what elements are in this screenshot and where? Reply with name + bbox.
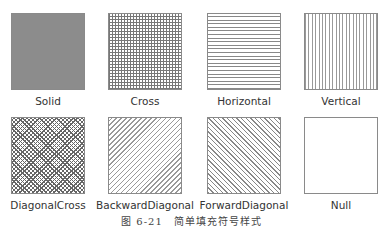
forward-diagonal-fill-swatch [207,117,281,194]
fill-style-label: BackwardDiagonal [88,199,202,211]
fill-style-solid: Solid [11,13,85,90]
horizontal-fill-swatch [207,13,281,90]
fill-style-backward-diagonal: BackwardDiagonal [108,117,182,194]
figure-caption: 图 6-21 简单填充符号样式 [0,213,383,228]
fill-style-horizontal: Horizontal [207,13,281,90]
fill-style-forward-diagonal: ForwardDiagonal [207,117,281,194]
solid-fill-swatch [11,13,85,90]
null-fill-swatch [304,117,378,194]
fill-style-null: Null [304,117,378,194]
cross-fill-swatch [108,13,182,90]
fill-style-label: Null [284,199,383,211]
fill-style-diagonal-cross: DiagonalCross [11,117,85,194]
fill-style-cross: Cross [108,13,182,90]
diagonal-cross-fill-swatch [11,117,85,194]
vertical-fill-swatch [304,13,378,90]
fill-style-vertical: Vertical [304,13,378,90]
backward-diagonal-fill-swatch [108,117,182,194]
fill-style-label: Vertical [284,95,383,107]
fill-style-label: Cross [88,95,202,107]
